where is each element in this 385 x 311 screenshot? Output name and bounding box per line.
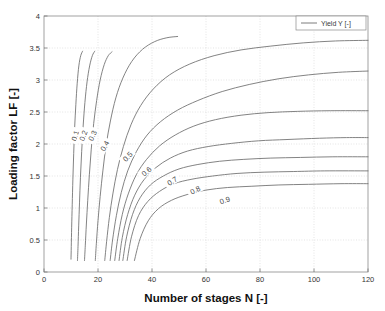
- y-tick-1: 1: [36, 204, 40, 213]
- y-tick-3: 3: [36, 76, 40, 85]
- x-tick-40: 40: [148, 275, 156, 284]
- y-tick-3.5: 3.5: [30, 44, 40, 53]
- y-tick-2.5: 2.5: [30, 108, 40, 117]
- x-tick-60: 60: [202, 275, 210, 284]
- x-tick-100: 100: [308, 275, 321, 284]
- y-tick-0: 0: [36, 268, 40, 277]
- y-axis-title: Loading factor LF [-]: [7, 88, 19, 200]
- legend-label-yield: Yield Y [-]: [321, 20, 351, 28]
- legend[interactable]: Yield Y [-]: [296, 16, 366, 30]
- x-tick-20: 20: [94, 275, 102, 284]
- y-tick-4: 4: [36, 12, 40, 21]
- chart-screenshot: 020406080100120 00.511.522.533.54 0.10.2…: [0, 0, 385, 311]
- chart-svg: 020406080100120 00.511.522.533.54 0.10.2…: [0, 0, 385, 311]
- x-tick-80: 80: [256, 275, 264, 284]
- chart-figure: 020406080100120 00.511.522.533.54 0.10.2…: [0, 0, 385, 311]
- x-axis-title: Number of stages N [-]: [144, 292, 267, 304]
- x-tick-120: 120: [362, 275, 375, 284]
- x-tick-0: 0: [42, 275, 46, 284]
- figure-background: [0, 0, 385, 311]
- y-tick-1.5: 1.5: [30, 172, 40, 181]
- y-tick-0.5: 0.5: [30, 236, 40, 245]
- y-tick-2: 2: [36, 140, 40, 149]
